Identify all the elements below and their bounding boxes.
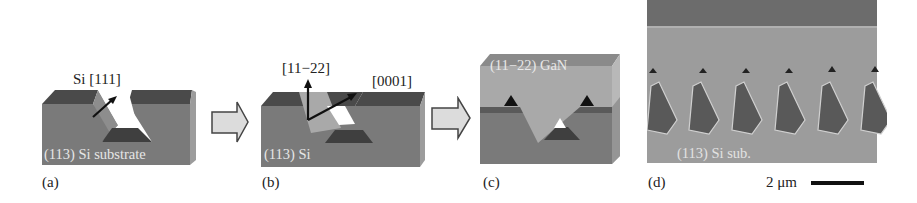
panel-a: Si [111] (113) Si substrate (a)	[0, 0, 200, 203]
direction-label-si-111: Si [111]	[73, 71, 121, 88]
substrate-label-b: (113) Si	[264, 146, 311, 163]
panel-b: [11−22] [0001] (113) Si (b)	[255, 0, 425, 203]
scale-bar	[811, 181, 864, 185]
panel-caption-b: (b)	[262, 174, 280, 191]
panel-caption-a: (a)	[42, 174, 59, 191]
direction-label-0001: [0001]	[372, 73, 412, 90]
direction-label-11-22: [11−22]	[282, 60, 330, 77]
substrate-diagram-a	[0, 0, 200, 203]
substrate-label-a: (113) Si substrate	[44, 146, 146, 163]
panel-caption-d: (d)	[648, 174, 666, 191]
sem-substrate-label: (113) Si sub.	[677, 145, 751, 162]
process-arrow-icon-2	[426, 96, 486, 146]
gan-layer-label: (11−22) GaN	[490, 57, 567, 74]
panel-caption-c: (c)	[483, 174, 500, 191]
process-arrow-icon-1	[202, 100, 262, 150]
panel-d: (113) Si sub. (d) 2 μm	[647, 0, 917, 203]
substrate-diagram-b	[255, 0, 425, 203]
gan-diagram-c	[480, 0, 630, 203]
scale-bar-label: 2 μm	[766, 174, 797, 191]
sem-image	[647, 0, 887, 165]
panel-c: (11−22) GaN (c)	[480, 0, 630, 203]
